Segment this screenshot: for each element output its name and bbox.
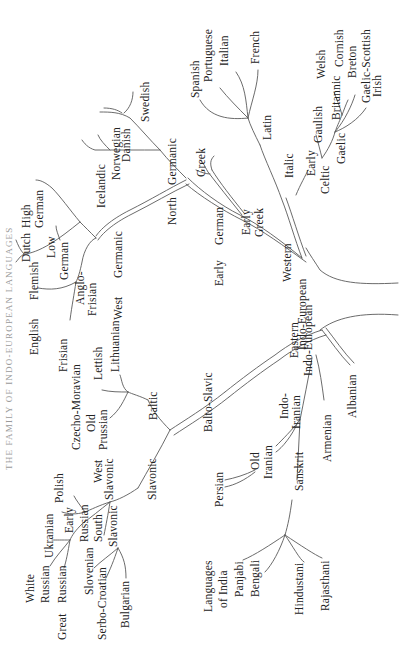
branch-bengali [265,535,285,572]
branch-spanish [200,100,248,119]
label-czecho: Czecho-Moravian [71,364,83,450]
indo-european-tree-diagram: THE FAMILY OF INDO-EUROPEAN LANGUAGES Sw… [0,0,401,663]
label-latin: Latin [262,115,274,140]
label-lang-1: Languages [203,560,215,612]
label-low-1: Low [46,236,58,258]
branch-panjabi [243,535,285,560]
label-white-r: Russian [40,565,52,603]
label-english: English [29,318,41,355]
label-bengali: Bengali [250,560,262,597]
label-ukranian: Ukranian [44,514,56,558]
trunk-upper-root [306,248,398,284]
label-flemish: Flemish [29,262,41,300]
branch-albanian [322,330,350,365]
branch-english [38,282,76,289]
label-baltic: Baltic [148,391,160,420]
label-old: Old [86,414,98,432]
label-west-sl-2: Slavonic [104,458,116,500]
label-irish: Irish [372,75,384,97]
label-great: Great [57,613,69,640]
label-early-greek-2: Greek [254,208,266,237]
label-hindustani: Hindustani [294,563,306,615]
label-indo-1: Indo- [279,393,291,419]
label-armenian: Armenian [322,414,334,462]
branch-italian [236,72,248,118]
label-high-1: High [21,204,33,228]
label-rajasthani: Rajasthani [320,560,332,611]
label-early-german-1: Early [214,260,226,286]
branch-baltic-fork [128,392,148,400]
label-danish: Danish [121,128,133,162]
label-frisian: Frisian [58,339,70,372]
label-norwegian: Norwegian [111,127,123,180]
branch-bulgarian [118,548,126,578]
label-eastern-1: Eastern [289,322,301,358]
label-balto-slavic: Balto-Slavic [203,372,215,432]
label-cornish: Cornish [334,29,346,67]
branch-portuguese [220,88,248,118]
trunk-lower-root [320,314,398,330]
branch-old-prussian [110,392,128,418]
label-swedish: Swedish [140,82,152,122]
label-anglo-1: Anglo- [75,271,87,305]
label-breton: Breton [347,46,359,79]
label-great-r: Russian [57,565,69,603]
label-gaelic: Gaelic [336,133,348,164]
label-old-ir-1: Old [250,452,262,470]
label-early-german-2: German [214,207,226,245]
label-panjabi: Panjabi [234,561,246,597]
branch-rajasthani [285,535,322,558]
label-north: North [167,197,179,225]
label-portuguese: Portuguese [203,29,215,82]
label-bulgarian: Bulgarian [120,581,132,628]
branch-west-germanic-fork [80,222,96,238]
label-dutch: Dutch [21,233,33,262]
label-eastern-2: Indo-European [303,304,315,376]
label-serbo: Serbo-Croatian [97,567,109,640]
branch-hindustani [285,535,304,562]
label-sanskrit: Sanskrit [294,452,306,491]
label-greek: Greek [196,148,208,177]
label-slavonic: Slavonic [147,458,159,500]
label-spanish: Spanish [190,60,202,98]
diagram-title: THE FAMILY OF INDO-EUROPEAN LANGUAGES [4,227,14,471]
label-white: White [25,574,37,603]
label-lettish: Lettish [93,347,105,380]
branch-latin [248,118,260,145]
label-early-celtic-2: Celtic [320,165,332,194]
branch-greek-tip [211,156,214,170]
branch-armenian [316,355,324,400]
branch-albanian-2 [326,328,354,363]
label-low-2: German [59,242,71,280]
branch-cornish-breton [342,100,348,115]
label-slovenian: Slovenian [84,547,96,595]
label-french: French [250,31,262,64]
label-west-germanic-2: Germanic [113,231,125,278]
label-early-celtic-1: Early [306,150,318,176]
branch-norwegian [98,135,110,150]
label-early-greek-1: Early [241,209,253,235]
label-early-ru-1: Early [64,507,76,533]
label-britannic: Britannic [331,75,343,120]
label-lang-2: of India [218,570,230,608]
branch-french [248,70,258,118]
branch-balto-slavic [170,392,225,430]
label-italic: Italic [284,153,296,178]
branch-lettish [102,390,128,392]
label-south-sl: Slavonic [108,505,120,547]
label-icelandic: Icelandic [96,164,108,208]
label-gaulish: Gaulish [313,106,325,143]
label-polish: Polish [54,473,66,503]
branch-swedish [124,92,133,113]
label-old-ir-2: Iranian [263,445,275,479]
label-albanian: Albanian [347,374,359,418]
label-persian: Persian [214,472,226,507]
label-germanic-n: Germanic [167,138,179,185]
label-welsh: Welsh [316,50,328,79]
branch-lithuanian [120,375,128,392]
label-italian: Italian [219,35,231,66]
label-russian-e: Russian [79,504,91,542]
label-high-2: German [34,190,46,228]
label-indo-2: Iranian [291,395,303,429]
label-south: South [93,514,105,542]
